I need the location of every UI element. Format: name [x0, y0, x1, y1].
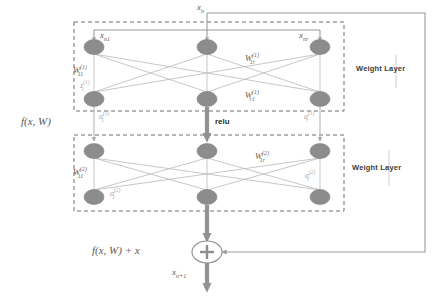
state-label-z1-1: z(1)1: [80, 82, 84, 90]
residual-block-svg: [0, 0, 440, 297]
weight-layer-2-edges: [94, 158, 320, 190]
relu-activation-arrows: [94, 107, 320, 141]
weight-label-wr1-1: W(1)r1: [245, 91, 255, 100]
weight-layer-2-side-label: Weight Layer: [352, 163, 401, 172]
weight-layer-1-edges: [94, 54, 320, 92]
activation-label-a1-1: a(1)1: [99, 113, 104, 121]
weight-layer-1-side-label: Weight Layer: [356, 64, 405, 73]
input-label-xn: xn: [197, 3, 204, 12]
function-label-fxw: f(x, W): [21, 116, 51, 127]
node-input-label-xnr: xnr: [299, 31, 308, 40]
activation-label-a1-2: a(2)1: [110, 190, 115, 198]
sum-expression-label: f(x, W) + x: [92, 245, 140, 256]
weight-label-w1r-1: W(1)1r: [245, 54, 255, 63]
weight-label-w1r-2: W(2)1r: [255, 152, 265, 161]
activation-label-ar-1: a(1)r: [304, 113, 308, 121]
activation-label-ar-2: a(2)r: [305, 172, 309, 180]
diagram-canvas: xn xn1 xnr W(1)11 W(1)1r W(1)r1 z(1)1 a(…: [0, 0, 440, 297]
relu-label: relu: [215, 117, 230, 126]
node-input-label-xn1: xn1: [100, 31, 110, 40]
weight-label-w11-2: W(2)11: [73, 168, 83, 177]
weight-label-w11-1: W(1)11: [73, 66, 83, 75]
output-label-xn1plus: xn+1: [172, 268, 186, 277]
input-distribution-bus: [94, 13, 320, 41]
sum-node: [192, 241, 222, 263]
